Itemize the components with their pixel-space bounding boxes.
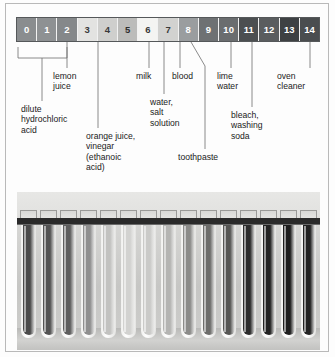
test-tube-ph-11 <box>241 210 256 338</box>
tube-highlight <box>244 226 246 332</box>
test-tube-ph-6 <box>141 210 156 338</box>
tube-highlight <box>284 226 286 332</box>
tube-highlight <box>84 226 86 332</box>
label-lime-water: lime water <box>217 71 238 92</box>
ph-cell-13: 13 <box>280 18 300 41</box>
test-tube-ph-10 <box>221 210 236 338</box>
label-blood: blood <box>172 71 193 81</box>
tube-highlight <box>104 226 106 332</box>
label-dilute-hydrochloric-acid: dilute hydrochloric acid <box>21 104 67 135</box>
tube-highlight <box>124 226 126 332</box>
ph-cell-2: 2 <box>57 18 77 41</box>
test-tube-ph-2 <box>61 210 76 338</box>
test-tube-ph-3 <box>81 210 96 338</box>
test-tube-ph-13 <box>281 210 296 338</box>
ph-cell-7: 7 <box>158 18 178 41</box>
ph-cell-8: 8 <box>179 18 199 41</box>
test-tube-ph-1 <box>41 210 56 338</box>
tube-highlight <box>304 226 306 332</box>
label-toothpaste: toothpaste <box>178 152 218 162</box>
tube-highlight <box>44 226 46 332</box>
test-tube-ph-8 <box>181 210 196 338</box>
test-tube-ph-4 <box>101 210 116 338</box>
tube-highlight <box>24 226 26 332</box>
ph-cell-5: 5 <box>118 18 138 41</box>
ph-cell-0: 0 <box>17 18 37 41</box>
test-tube-row <box>21 210 316 338</box>
ph-cell-10: 10 <box>219 18 239 41</box>
tube-highlight <box>184 226 186 332</box>
ph-cell-6: 6 <box>138 18 158 41</box>
rack-support-bar <box>17 218 320 224</box>
ph-cell-9: 9 <box>199 18 219 41</box>
test-tube-ph-0 <box>21 210 36 338</box>
tube-highlight <box>144 226 146 332</box>
tube-highlight <box>64 226 66 332</box>
label-milk: milk <box>136 71 151 81</box>
tube-highlight <box>204 226 206 332</box>
test-tube-ph-7 <box>161 210 176 338</box>
test-tube-ph-12 <box>261 210 276 338</box>
label-oven-cleaner: oven cleaner <box>277 71 305 92</box>
ph-scale-figure: 01234567891011121314 dilute <box>0 0 335 357</box>
ph-cell-4: 4 <box>98 18 118 41</box>
ph-cell-11: 11 <box>239 18 259 41</box>
ph-cell-3: 3 <box>78 18 98 41</box>
ph-scale-bar: 01234567891011121314 <box>16 17 320 42</box>
ph-cell-1: 1 <box>37 18 57 41</box>
test-tube-ph-5 <box>121 210 136 338</box>
tube-highlight <box>164 226 166 332</box>
test-tube-ph-9 <box>201 210 216 338</box>
test-tube-ph-14 <box>301 210 316 338</box>
ph-cell-12: 12 <box>259 18 279 41</box>
tube-highlight <box>224 226 226 332</box>
label-bleach-washing-soda: bleach, washing soda <box>231 110 263 141</box>
label-orange-juice-vinegar: orange juice, vinegar (ethanoic acid) <box>86 131 135 173</box>
tube-highlight <box>264 226 266 332</box>
ph-cell-14: 14 <box>300 18 319 41</box>
label-water-salt-solution: water, salt solution <box>150 97 180 128</box>
test-tube-rack-photo <box>17 192 320 350</box>
label-lemon-juice: lemon juice <box>53 71 76 92</box>
